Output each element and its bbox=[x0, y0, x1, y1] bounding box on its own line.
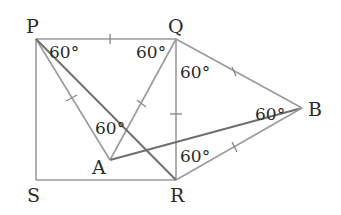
angle-label-Q-left: 60° bbox=[136, 42, 166, 62]
geometry-diagram: P Q B A S R 60° 60° 60° 60° 60° 60° bbox=[0, 0, 341, 215]
vertex-label-B: B bbox=[308, 98, 322, 120]
vertex-label-R: R bbox=[170, 184, 185, 206]
angle-label-R: 60° bbox=[180, 146, 210, 166]
angle-label-P: 60° bbox=[49, 42, 79, 62]
vertex-label-Q: Q bbox=[168, 15, 184, 37]
vertex-label-S: S bbox=[27, 184, 40, 206]
angle-label-A: 60° bbox=[95, 118, 125, 138]
vertex-label-P: P bbox=[26, 15, 39, 37]
angle-label-B: 60° bbox=[255, 104, 285, 124]
vertex-label-A: A bbox=[91, 156, 106, 178]
angle-label-Q-right: 60° bbox=[180, 62, 210, 82]
